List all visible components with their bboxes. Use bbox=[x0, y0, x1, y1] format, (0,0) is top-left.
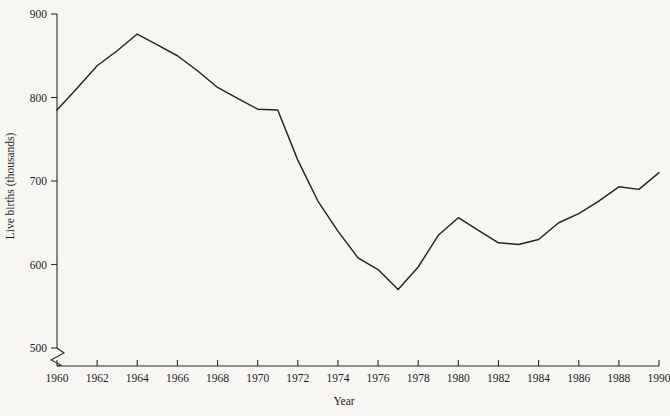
x-tick-label: 1978 bbox=[407, 372, 430, 384]
x-tick-label: 1966 bbox=[166, 372, 189, 384]
y-axis: 500600700800900 bbox=[30, 8, 57, 354]
x-tick-label: 1962 bbox=[86, 372, 109, 384]
x-tick-label: 1988 bbox=[607, 372, 630, 384]
x-tick-label: 1968 bbox=[206, 372, 229, 384]
chart-container: 500600700800900 196019621964196619681970… bbox=[0, 0, 670, 416]
x-tick-label: 1960 bbox=[46, 372, 69, 384]
y-tick-label: 500 bbox=[30, 342, 48, 354]
x-tick-label: 1976 bbox=[367, 372, 390, 384]
data-series bbox=[57, 34, 659, 290]
x-tick-label: 1982 bbox=[487, 372, 510, 384]
y-tick-label: 600 bbox=[30, 259, 48, 271]
x-tick-label: 1970 bbox=[246, 372, 269, 384]
y-tick-label: 800 bbox=[30, 92, 48, 104]
x-tick-label: 1980 bbox=[447, 372, 470, 384]
x-tick-label: 1986 bbox=[567, 372, 590, 384]
y-axis-title: Live births (thousands) bbox=[4, 132, 17, 239]
line-chart: 500600700800900 196019621964196619681970… bbox=[0, 0, 670, 416]
x-tick-label: 1972 bbox=[286, 372, 309, 384]
y-tick-label: 900 bbox=[30, 8, 48, 20]
x-axis-title: Year bbox=[333, 395, 354, 407]
x-axis: 1960196219641966196819701972197419761978… bbox=[46, 360, 670, 384]
x-tick-label: 1990 bbox=[648, 372, 670, 384]
series-line-live-births bbox=[57, 34, 659, 290]
x-tick-label: 1984 bbox=[527, 372, 550, 384]
x-tick-label: 1964 bbox=[126, 372, 149, 384]
axis-break-zigzag-icon bbox=[51, 348, 64, 366]
y-tick-label: 700 bbox=[30, 175, 48, 187]
x-tick-label: 1974 bbox=[326, 372, 349, 384]
